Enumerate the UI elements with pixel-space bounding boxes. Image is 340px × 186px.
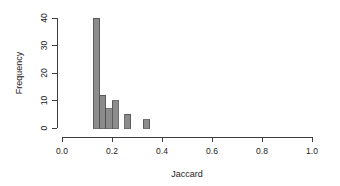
y-tick-label: 10 <box>39 96 49 106</box>
x-axis-ticks: 0.00.20.40.60.81.0 <box>56 137 318 156</box>
histogram-bar <box>112 101 118 129</box>
histogram-bar <box>106 109 112 128</box>
histogram-bar <box>93 18 99 128</box>
chart-canvas: 0.00.20.40.60.81.0 010203040 Jaccard Fre… <box>0 0 340 186</box>
x-tick-label: 0.6 <box>206 146 218 156</box>
histogram-bar <box>143 120 149 128</box>
x-tick-label: 0.4 <box>156 146 168 156</box>
histogram-bar <box>100 95 106 128</box>
y-tick-label: 20 <box>39 68 49 78</box>
y-tick-label: 0 <box>39 125 49 130</box>
x-tick-label: 0.2 <box>106 146 118 156</box>
x-tick-label: 1.0 <box>306 146 318 156</box>
x-tick-label: 0.8 <box>256 146 268 156</box>
y-tick-label: 40 <box>39 13 49 23</box>
histogram-bars <box>93 18 149 128</box>
y-axis-title: Frequency <box>14 51 24 94</box>
x-axis-title: Jaccard <box>171 169 203 179</box>
x-tick-label: 0.0 <box>56 146 68 156</box>
histogram-bar <box>125 114 131 128</box>
y-tick-label: 30 <box>39 41 49 51</box>
histogram-plot: 0.00.20.40.60.81.0 010203040 Jaccard Fre… <box>0 0 340 186</box>
y-axis-ticks: 010203040 <box>39 13 57 130</box>
